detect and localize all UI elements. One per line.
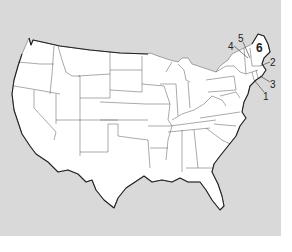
- label-3: 3: [270, 79, 276, 90]
- label-6: 6: [256, 41, 263, 55]
- us-outline-map: 4 5 6 2 3 1: [0, 0, 281, 236]
- us-landmass: [12, 34, 270, 210]
- label-2: 2: [270, 57, 276, 68]
- label-1: 1: [263, 91, 269, 102]
- label-4: 4: [228, 41, 234, 52]
- label-5: 5: [238, 33, 244, 44]
